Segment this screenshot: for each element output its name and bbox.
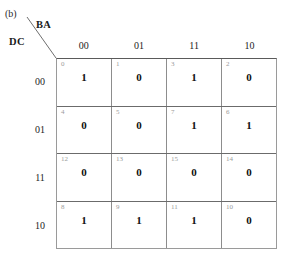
cell-value: 0 bbox=[112, 72, 166, 83]
cell-index: 12 bbox=[61, 156, 68, 163]
column-header-2: 11 bbox=[167, 40, 222, 57]
cell-value: 1 bbox=[167, 215, 221, 226]
kmap-cell[interactable]: 7 1 bbox=[167, 107, 222, 154]
cell-value: 1 bbox=[167, 72, 221, 83]
cell-index: 0 bbox=[61, 61, 65, 68]
kmap-cell[interactable]: 12 0 bbox=[57, 154, 112, 201]
left-variable-label: DC bbox=[9, 36, 25, 47]
cell-value: 0 bbox=[222, 167, 276, 178]
kmap-cell[interactable]: 5 0 bbox=[112, 107, 167, 154]
cell-value: 0 bbox=[57, 120, 111, 131]
cell-value: 1 bbox=[222, 120, 276, 131]
cell-index: 7 bbox=[171, 109, 175, 116]
cell-index: 14 bbox=[226, 156, 233, 163]
cell-index: 11 bbox=[171, 204, 178, 211]
kmap-cell[interactable]: 0 1 bbox=[57, 59, 112, 106]
cell-index: 10 bbox=[226, 204, 233, 211]
kmap-cell[interactable]: 14 0 bbox=[222, 154, 276, 201]
kmap-cell[interactable]: 9 1 bbox=[112, 202, 167, 249]
cell-value: 0 bbox=[57, 167, 111, 178]
cell-index: 6 bbox=[226, 109, 230, 116]
kmap-cell[interactable]: 13 0 bbox=[112, 154, 167, 201]
column-header-3: 10 bbox=[222, 40, 277, 57]
kmap-cell[interactable]: 2 0 bbox=[222, 59, 276, 106]
kmap-cell[interactable]: 3 1 bbox=[167, 59, 222, 106]
table-row: 12 0 13 0 15 0 14 0 bbox=[57, 154, 276, 202]
cell-value: 0 bbox=[222, 72, 276, 83]
row-header-0: 00 bbox=[26, 58, 54, 106]
cell-index: 2 bbox=[226, 61, 230, 68]
cell-value: 1 bbox=[112, 215, 166, 226]
column-header-0: 00 bbox=[56, 40, 111, 57]
table-row: 4 0 5 0 7 1 6 1 bbox=[57, 107, 276, 155]
cell-index: 8 bbox=[61, 204, 65, 211]
kmap-cell[interactable]: 6 1 bbox=[222, 107, 276, 154]
kmap-cell[interactable]: 8 1 bbox=[57, 202, 112, 249]
column-header-row: 00 01 11 10 bbox=[56, 40, 277, 57]
row-header-2: 11 bbox=[26, 154, 54, 202]
cell-index: 15 bbox=[171, 156, 178, 163]
column-header-1: 01 bbox=[111, 40, 166, 57]
cell-value: 0 bbox=[112, 167, 166, 178]
kmap-cell[interactable]: 4 0 bbox=[57, 107, 112, 154]
karnaugh-grid: 0 1 1 0 3 1 2 0 4 0 5 0 bbox=[56, 58, 277, 249]
kmap-cell[interactable]: 15 0 bbox=[167, 154, 222, 201]
cell-index: 4 bbox=[61, 109, 65, 116]
kmap-cell[interactable]: 1 0 bbox=[112, 59, 167, 106]
cell-value: 1 bbox=[57, 215, 111, 226]
table-row: 0 1 1 0 3 1 2 0 bbox=[57, 59, 276, 107]
cell-index: 1 bbox=[116, 61, 120, 68]
kmap-cell[interactable]: 10 0 bbox=[222, 202, 276, 249]
cell-value: 1 bbox=[167, 120, 221, 131]
figure-label: (b) bbox=[5, 8, 17, 19]
row-header-3: 10 bbox=[26, 201, 54, 249]
cell-value: 0 bbox=[112, 120, 166, 131]
top-variable-label: BA bbox=[36, 19, 51, 30]
cell-value: 1 bbox=[57, 72, 111, 83]
cell-value: 0 bbox=[167, 167, 221, 178]
cell-index: 13 bbox=[116, 156, 123, 163]
cell-index: 9 bbox=[116, 204, 120, 211]
karnaugh-map-figure: (b) BA DC 00 01 11 10 00 01 11 10 0 1 1 … bbox=[0, 0, 287, 257]
kmap-cell[interactable]: 11 1 bbox=[167, 202, 222, 249]
cell-value: 0 bbox=[222, 215, 276, 226]
table-row: 8 1 9 1 11 1 10 0 bbox=[57, 202, 276, 249]
cell-index: 3 bbox=[171, 61, 175, 68]
row-header-1: 01 bbox=[26, 106, 54, 154]
row-header-column: 00 01 11 10 bbox=[26, 58, 54, 249]
cell-index: 5 bbox=[116, 109, 120, 116]
